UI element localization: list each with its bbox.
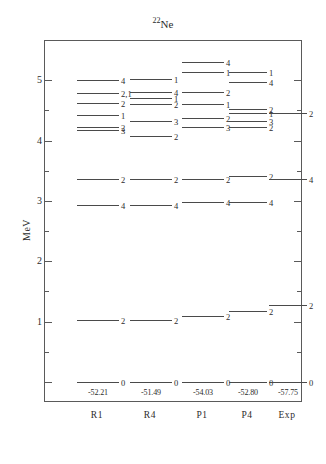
y-axis-label: MeV <box>21 219 32 241</box>
energy-level-line: 2 <box>269 113 307 114</box>
y-axis-tick-label: 3 <box>37 196 42 206</box>
column-label-r4: R4 <box>124 411 176 421</box>
y-axis-tick-label: 4 <box>37 136 42 146</box>
y-axis-tick-label: 1 <box>37 317 42 327</box>
energy-level-spin-label: 4 <box>309 175 313 184</box>
column-label-r1: R1 <box>71 411 123 421</box>
ground-state-binding-energy: -57.75 <box>262 389 314 397</box>
plot-frame: MeV 12345024232122,14-52.210242232141-51… <box>44 40 302 402</box>
energy-level-spin-label: 2 <box>309 302 313 311</box>
element-symbol: Ne <box>160 18 173 30</box>
figure-title: 22Ne <box>0 16 326 30</box>
energy-level-spin-label: 2 <box>309 110 313 119</box>
column-label-exp: Exp <box>261 411 313 421</box>
energy-level-line: 4 <box>269 179 307 180</box>
energy-level-line: 2 <box>269 305 307 306</box>
y-axis-tick-label: 2 <box>37 256 42 266</box>
energy-level-line: 0 <box>269 382 307 383</box>
y-axis-tick-label: 5 <box>37 75 42 85</box>
level-column-exp: 0242 <box>45 41 303 401</box>
energy-level-diagram: 22Ne MeV 12345024232122,14-52.2102422321… <box>0 0 326 464</box>
energy-level-spin-label: 0 <box>309 378 313 387</box>
